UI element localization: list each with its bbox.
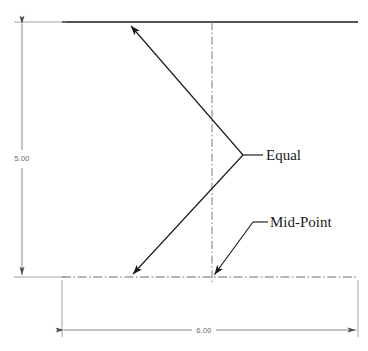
vertical-dimension-group: 5.00 bbox=[14, 22, 66, 277]
equal-leader-group bbox=[131, 26, 263, 274]
midpoint-leader-group bbox=[215, 222, 269, 275]
horizontal-dimension-group: 6.00 bbox=[62, 280, 358, 337]
equal-upper-leader-arrow bbox=[131, 26, 243, 155]
equal-annotation-label: Equal bbox=[266, 147, 301, 163]
horizontal-dimension-value: 6.00 bbox=[196, 326, 211, 335]
engineering-drawing: 5.00 6.00 Equal Mid-Point bbox=[0, 0, 368, 351]
midpoint-leader-arrow bbox=[215, 222, 254, 275]
cad-canvas: 5.00 6.00 Equal Mid-Point bbox=[0, 0, 368, 351]
vertical-dimension-value: 5.00 bbox=[14, 154, 29, 163]
midpoint-annotation-label: Mid-Point bbox=[270, 214, 333, 230]
equal-lower-leader-arrow bbox=[133, 155, 243, 274]
